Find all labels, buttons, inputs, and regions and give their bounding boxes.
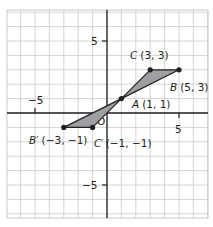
point-c [148,67,153,72]
label-b-letter: B [170,81,177,93]
label-a-letter: A [131,98,139,110]
x-tick-label-pos5: 5 [175,123,182,135]
label-b: B(5, 3) [170,81,208,93]
y-tick-label-neg5: −5 [82,179,97,191]
point-a [119,96,124,101]
label-c: C(3, 3) [130,49,169,61]
label-b-coords: (5, 3) [180,81,208,93]
label-b-prime-letter: B′ [29,134,39,146]
point-b [176,67,181,72]
label-b-prime-coords: (−3, −1) [42,134,88,146]
point-b-prime [61,125,66,130]
label-a: A(1, 1) [131,98,170,110]
label-c-prime-letter: C′ [94,137,104,149]
label-c-letter: C [130,49,138,61]
y-tick-label-pos5: 5 [91,35,98,47]
label-b-prime: B′(−3, −1) [29,134,87,146]
label-c-prime-coords: (−1, −1) [106,137,152,149]
coordinate-plane: −5 5 5 −5 O C(3, 3) B(5, 3) A(1, 1) B′(−… [0,0,213,227]
label-a-coords: (1, 1) [142,98,170,110]
x-tick-label-neg5: −5 [28,94,43,106]
point-c-prime [90,125,95,130]
label-c-coords: (3, 3) [140,49,168,61]
label-c-prime: C′(−1, −1) [94,137,152,149]
